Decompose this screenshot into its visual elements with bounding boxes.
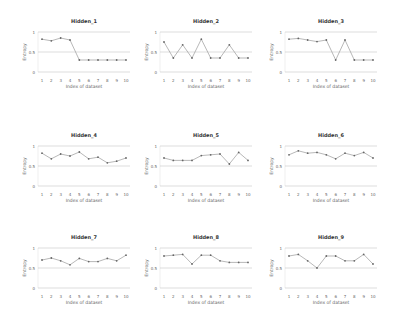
x-tick-label: 8 [353, 294, 356, 299]
x-tick-label: 4 [316, 294, 319, 299]
chart-body: Hidden_900.51Entropy12345678910Index of … [269, 234, 377, 305]
y-tick-label: 1 [279, 246, 282, 251]
series-line [289, 254, 373, 268]
data-point [288, 255, 290, 257]
chart-title: Hidden_9 [318, 234, 345, 241]
x-axis-label: Index of dataset [313, 300, 350, 305]
x-tick-label: 9 [362, 294, 365, 299]
data-point [297, 254, 299, 256]
y-axis-label: Entropy [269, 259, 274, 277]
data-point [344, 260, 346, 262]
y-tick-label: 0.5 [276, 266, 283, 271]
data-point [325, 255, 327, 257]
data-point [353, 260, 355, 262]
x-tick-label: 3 [306, 294, 309, 299]
x-tick-label: 6 [334, 294, 337, 299]
x-tick-label: 10 [370, 294, 376, 299]
x-tick-label: 2 [297, 294, 300, 299]
x-tick-label: 7 [344, 294, 347, 299]
data-point [316, 267, 318, 269]
x-tick-label: 5 [325, 294, 328, 299]
data-point [307, 260, 309, 262]
y-tick-label: 0 [279, 286, 282, 291]
data-point [372, 263, 374, 265]
data-point [335, 255, 337, 257]
data-point [363, 254, 365, 256]
x-tick-label: 1 [288, 294, 291, 299]
